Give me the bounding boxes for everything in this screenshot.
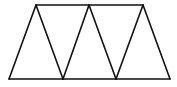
diag-2: [63, 5, 89, 79]
trapezoid-triangles-diagram: [0, 0, 177, 87]
right-edge: [143, 5, 170, 79]
diag-4: [116, 5, 143, 79]
left-edge: [9, 5, 36, 79]
diag-3: [89, 5, 116, 79]
diag-1: [36, 5, 63, 79]
